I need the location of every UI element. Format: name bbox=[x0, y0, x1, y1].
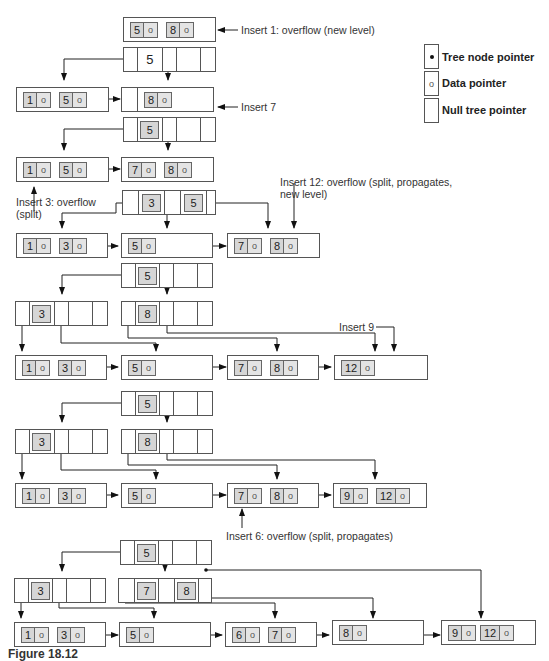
tree-node-pointer bbox=[122, 264, 136, 287]
null-pointer bbox=[198, 302, 212, 325]
tree-node-pointer bbox=[160, 392, 174, 415]
key: 3 bbox=[30, 302, 54, 325]
key: 5 bbox=[138, 118, 162, 141]
null-pointer bbox=[93, 302, 107, 325]
key: 5 bbox=[181, 191, 207, 214]
root-node: 5 bbox=[123, 117, 216, 142]
leaf-node: 5o 8o bbox=[123, 17, 216, 42]
internal-node: 8 bbox=[121, 429, 213, 454]
null-pointer bbox=[198, 430, 212, 453]
key-entry: 8o bbox=[166, 22, 194, 38]
next-leaf-pointer bbox=[300, 623, 316, 646]
tree-node-pointer bbox=[160, 264, 174, 287]
tree-node-pointer bbox=[16, 430, 30, 453]
null-pointer bbox=[197, 88, 213, 111]
null-pointer bbox=[198, 392, 212, 415]
key: 5 bbox=[136, 264, 160, 287]
tree-node-pointer bbox=[159, 541, 173, 564]
leaf-node: 8o bbox=[332, 620, 424, 645]
null-key bbox=[174, 302, 198, 325]
leaf-node: 8o bbox=[121, 87, 214, 112]
null-pointer bbox=[201, 118, 215, 141]
annotation-insert-3-line2: (split) bbox=[16, 208, 42, 221]
internal-node: 7 8 bbox=[118, 578, 212, 603]
key: 3 bbox=[139, 191, 165, 214]
next-leaf-pointer bbox=[196, 234, 212, 257]
tree-node-pointer bbox=[160, 302, 174, 325]
leaf-node: 1o 3o bbox=[15, 355, 107, 380]
null-pointer bbox=[303, 234, 319, 257]
next-leaf-pointer bbox=[194, 623, 210, 646]
data-pointer-legend-icon: o bbox=[424, 71, 439, 96]
leaf-node: 1o 3o bbox=[14, 622, 106, 647]
next-leaf-pointer bbox=[302, 356, 318, 379]
key: 7 bbox=[135, 579, 159, 602]
leaf-node: 1o 5o bbox=[16, 87, 109, 112]
null-pointer bbox=[198, 264, 212, 287]
tree-node-pointer bbox=[121, 541, 135, 564]
root-node: 5 bbox=[123, 47, 216, 72]
next-leaf-pointer bbox=[92, 88, 108, 111]
key: 5 bbox=[138, 48, 162, 71]
null-pointer bbox=[201, 48, 215, 71]
internal-node: 3 bbox=[15, 301, 108, 326]
root-node: 3 5 bbox=[122, 190, 216, 215]
prev-pointer bbox=[122, 88, 138, 111]
leaf-node: 1o 3o bbox=[16, 233, 108, 258]
null-key bbox=[174, 392, 198, 415]
null-pointer bbox=[414, 484, 426, 507]
null-key bbox=[69, 430, 93, 453]
leaf-node: 6o 7o bbox=[225, 622, 317, 647]
leaf-node: 7o 8o bbox=[121, 157, 214, 182]
tree-node-pointer bbox=[199, 579, 211, 602]
null-pointer bbox=[93, 430, 107, 453]
tree-node-pointer bbox=[53, 579, 67, 602]
null-pointer bbox=[523, 621, 535, 644]
tree-node-pointer bbox=[122, 392, 136, 415]
tree-node-pointer-legend-icon bbox=[424, 44, 439, 69]
leaf-node: 9o 12o bbox=[333, 483, 427, 508]
next-leaf-pointer bbox=[89, 623, 105, 646]
figure-caption: Figure 18.12 bbox=[8, 648, 78, 661]
tree-node-pointer bbox=[123, 191, 139, 214]
tree-node-pointer bbox=[122, 430, 136, 453]
internal-node: 3 bbox=[14, 578, 106, 603]
tree-node-pointer bbox=[207, 191, 215, 214]
root-node: 5 bbox=[120, 540, 212, 565]
leaf-node: 7o 8o bbox=[227, 483, 319, 508]
annotation-insert-9: Insert 9 bbox=[339, 321, 374, 334]
null-tree-pointer-legend-icon bbox=[424, 98, 439, 123]
leaf-node: 1o 3o bbox=[15, 483, 107, 508]
leaf-node: 5o bbox=[119, 622, 211, 647]
null-key bbox=[174, 430, 198, 453]
next-leaf-pointer bbox=[90, 356, 106, 379]
tree-node-pointer bbox=[119, 579, 135, 602]
legend-label-tree-node-pointer: Tree node pointer bbox=[442, 51, 534, 63]
tree-node-pointer bbox=[124, 118, 138, 141]
key: 5 bbox=[136, 392, 160, 415]
null-pointer bbox=[91, 579, 105, 602]
null-pointer bbox=[197, 541, 211, 564]
key: 8 bbox=[136, 302, 160, 325]
tree-node-pointer bbox=[55, 302, 69, 325]
leaf-node: 5o bbox=[121, 355, 213, 380]
next-leaf-pointer bbox=[196, 356, 212, 379]
null-key bbox=[177, 118, 201, 141]
tree-node-pointer bbox=[55, 430, 69, 453]
null-pointer bbox=[199, 18, 215, 41]
annotation-insert-1: Insert 1: overflow (new level) bbox=[241, 24, 375, 37]
tree-node-pointer bbox=[15, 579, 29, 602]
key-entry: 5o bbox=[130, 22, 158, 38]
annotation-insert-12-line2: new level) bbox=[280, 188, 327, 201]
next-leaf-pointer bbox=[407, 621, 423, 644]
key: 3 bbox=[30, 430, 54, 453]
root-node: 5 bbox=[121, 391, 213, 416]
internal-node: 3 bbox=[15, 429, 108, 454]
leaf-node: 9o 12o bbox=[441, 620, 536, 645]
legend-label-null-tree-pointer: Null tree pointer bbox=[442, 104, 526, 116]
next-leaf-pointer bbox=[92, 158, 108, 181]
annotation-insert-7: Insert 7 bbox=[241, 101, 276, 114]
tree-node-pointer bbox=[163, 48, 177, 71]
null-key bbox=[69, 302, 93, 325]
